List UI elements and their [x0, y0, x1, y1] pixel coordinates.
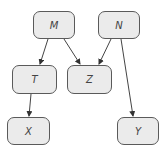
node-z-label: Z [86, 74, 93, 85]
causal-graph: M N T Z X Y [0, 0, 166, 156]
edge-t-x [29, 94, 31, 116]
edge-m-t [40, 39, 48, 64]
edge-n-y [121, 39, 133, 116]
node-n-label: N [115, 20, 122, 31]
node-x: X [7, 117, 50, 145]
node-t: T [12, 65, 57, 94]
node-z: Z [67, 65, 112, 94]
node-m: M [33, 11, 75, 39]
edge-n-z [99, 39, 111, 64]
edge-m-z [64, 39, 80, 64]
node-y-label: Y [135, 126, 141, 137]
node-n: N [98, 11, 140, 39]
node-x-label: X [25, 126, 32, 137]
node-y: Y [117, 117, 159, 145]
node-m-label: M [50, 20, 59, 31]
node-t-label: T [31, 74, 37, 85]
